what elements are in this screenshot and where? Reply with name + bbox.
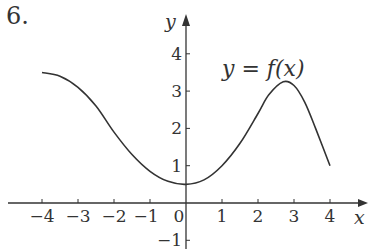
x-tick-label: 3	[289, 206, 300, 226]
x-tick-label: 4	[325, 206, 336, 226]
y-tick-label: 4	[171, 44, 182, 64]
y-axis-label: y	[164, 10, 176, 32]
x-tick-label: −2	[101, 206, 126, 226]
x-tick-label: −1	[133, 206, 158, 226]
y-axis-arrow-icon	[182, 14, 190, 26]
x-tick-label: −4	[29, 206, 54, 226]
x-tick-label: 1	[217, 206, 228, 226]
x-tick-label: 2	[253, 206, 264, 226]
y-tick-label: 1	[171, 156, 182, 176]
y-tick-label: 2	[171, 118, 182, 138]
x-axis-label: x	[354, 206, 365, 228]
function-graph: −4−3−2−101234−11234xyy = f(x)	[0, 0, 371, 249]
curve-label: y = f(x)	[221, 56, 305, 81]
y-tick-label: −1	[157, 230, 182, 249]
y-tick-label: 3	[171, 81, 182, 101]
x-tick-label: −3	[65, 206, 90, 226]
x-tick-label: 0	[174, 206, 185, 226]
